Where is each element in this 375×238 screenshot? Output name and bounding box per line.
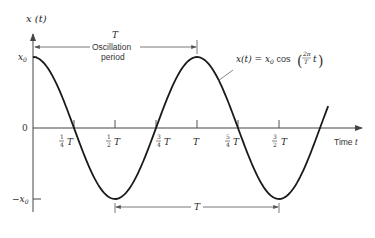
svg-text:T: T	[304, 58, 309, 65]
zero-label: 0	[22, 123, 28, 133]
amplitude-bottom-label: −x0	[12, 194, 29, 205]
svg-text:t: t	[313, 54, 317, 64]
svg-text:1: 1	[107, 133, 111, 140]
svg-text:(: (	[297, 53, 302, 69]
svg-text:x(t) = x0 cos: x(t) = x0 cos	[236, 54, 291, 65]
tick-five-quarter: 5 4 T	[225, 133, 240, 148]
y-axis-label: x (t)	[26, 13, 47, 24]
svg-text:T: T	[112, 30, 119, 40]
amplitude-top-label: x0	[18, 52, 27, 63]
svg-text:5: 5	[226, 133, 230, 140]
svg-text:Oscillation: Oscillation	[92, 42, 131, 52]
tick-half: 1 2 T	[106, 133, 121, 148]
svg-text:period: period	[101, 52, 125, 62]
x-axis-label: Time t	[334, 137, 358, 147]
svg-text:T: T	[281, 137, 288, 147]
svg-text:3: 3	[273, 133, 277, 140]
svg-text:T: T	[194, 202, 201, 212]
svg-text:2π: 2π	[302, 50, 312, 57]
svg-text:T: T	[193, 137, 200, 147]
svg-text:1: 1	[60, 133, 64, 140]
tick-one: T	[193, 137, 200, 147]
oscillation-diagram: x (t) x0 0 −x0 1 4 T 1 2 T 3 4 T	[0, 0, 375, 238]
svg-text:4: 4	[226, 141, 230, 148]
tick-three-quarter: 3 4 T	[156, 133, 171, 148]
svg-text:4: 4	[157, 141, 161, 148]
svg-text:2: 2	[273, 141, 277, 148]
svg-text:2: 2	[107, 141, 111, 148]
svg-text:3: 3	[157, 133, 161, 140]
svg-text:T: T	[114, 137, 121, 147]
bottom-period-span: T	[115, 202, 279, 213]
tick-labels: 1 4 T 1 2 T 3 4 T T 5 4 T 3 2	[59, 133, 288, 148]
tick-quarter: 1 4 T	[59, 133, 74, 148]
x-axis-ticks	[74, 120, 279, 128]
svg-text:T: T	[233, 137, 240, 147]
top-period-span: T Oscillation period	[35, 30, 197, 62]
svg-text:): )	[318, 53, 323, 69]
svg-text:4: 4	[60, 141, 64, 148]
svg-text:T: T	[164, 137, 171, 147]
equation-annotation: x(t) = x0 cos ( 2π T t )	[218, 50, 323, 81]
tick-three-half: 3 2 T	[272, 133, 288, 148]
svg-text:T: T	[67, 137, 74, 147]
